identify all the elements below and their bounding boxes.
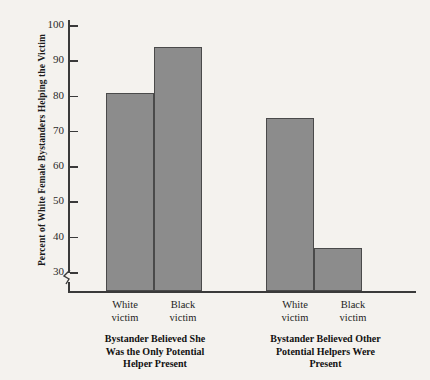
group-caption-line2: Potential Helpers Were xyxy=(248,346,403,359)
bar-label-line2: victim xyxy=(320,311,386,324)
bar-label-g1-black: Black victim xyxy=(150,298,216,324)
group-caption-line1: Bystander Believed She xyxy=(85,333,225,346)
bar-label-line1: White xyxy=(92,298,158,311)
bar-chart-figure: Percent of White Female Bystanders Helpi… xyxy=(0,0,430,380)
group-caption-2: Bystander Believed Other Potential Helpe… xyxy=(248,333,403,371)
bar-g1-black-victim xyxy=(154,47,202,291)
bar-label-line1: Black xyxy=(320,298,386,311)
bar-g2-white-victim xyxy=(266,118,314,291)
group-caption-1: Bystander Believed She Was the Only Pote… xyxy=(85,333,225,371)
bar-label-line2: victim xyxy=(150,311,216,324)
bar-g1-white-victim xyxy=(106,93,154,291)
tick-label: 40 xyxy=(34,230,64,242)
bar-label-g2-white: White victim xyxy=(262,298,328,324)
group-caption-line3: Helper Present xyxy=(85,358,225,371)
bars-layer xyxy=(70,20,416,291)
tick-label: 80 xyxy=(34,89,64,101)
group-caption-line2: Was the Only Potential xyxy=(85,346,225,359)
tick-label: 100 xyxy=(34,18,64,30)
tick-label: 30 xyxy=(34,265,64,277)
tick-label: 90 xyxy=(34,53,64,65)
plot-area: 10090807060504030 xyxy=(68,20,416,292)
bar-label-line2: victim xyxy=(92,311,158,324)
bar-label-line1: White xyxy=(262,298,328,311)
tick-label: 60 xyxy=(34,159,64,171)
bar-label-g1-white: White victim xyxy=(92,298,158,324)
tick-label: 70 xyxy=(34,124,64,136)
bar-label-line1: Black xyxy=(150,298,216,311)
group-caption-line1: Bystander Believed Other xyxy=(248,333,403,346)
group-caption-line3: Present xyxy=(248,358,403,371)
bar-label-g2-black: Black victim xyxy=(320,298,386,324)
bar-label-line2: victim xyxy=(262,311,328,324)
tick-label: 50 xyxy=(34,194,64,206)
y-axis-title: Percent of White Female Bystanders Helpi… xyxy=(37,5,47,295)
x-axis-line xyxy=(68,291,416,293)
bar-g2-black-victim xyxy=(314,248,362,291)
